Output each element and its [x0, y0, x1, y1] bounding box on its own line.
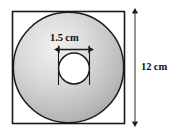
square-side-label: 12 cm	[141, 62, 167, 73]
geometry-figure: 1.5 cm 12 cm	[0, 0, 174, 137]
hole-diameter-label: 1.5 cm	[50, 33, 79, 44]
center-hole	[59, 53, 90, 84]
